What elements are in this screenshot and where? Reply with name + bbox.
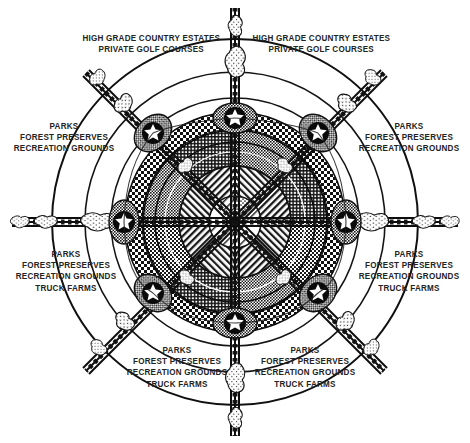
label-line: PRIVATE GOLF COURSES: [82, 44, 220, 55]
label-line: FOREST PRESERVES: [9, 132, 120, 143]
city-plan-drawing: [0, 0, 470, 443]
label-line: HIGH GRADE COUNTRY ESTATES: [82, 33, 220, 44]
label-line: FOREST PRESERVES: [9, 260, 124, 271]
label-line: PARKS: [122, 345, 233, 356]
label-line: FOREST PRESERVES: [250, 356, 361, 367]
label-parks-south-west: PARKS FOREST PRESERVES RECREATION GROUND…: [122, 345, 233, 390]
label-line: FOREST PRESERVES: [122, 356, 233, 367]
label-line: FOREST PRESERVES: [354, 132, 465, 143]
label-line: RECREATION GROUNDS: [9, 143, 120, 154]
label-line: RECREATION GROUNDS: [354, 143, 465, 154]
label-line: PARKS: [250, 345, 361, 356]
label-line: TRUCK FARMS: [9, 283, 124, 294]
label-line: RECREATION GROUNDS: [250, 367, 361, 378]
label-line: RECREATION GROUNDS: [9, 271, 124, 282]
label-line: TRUCK FARMS: [122, 379, 233, 390]
label-line: PARKS: [354, 121, 465, 132]
label-line: PARKS: [9, 249, 124, 260]
radial-city-plan-diagram: HIGH GRADE COUNTRY ESTATES PRIVATE GOLF …: [0, 0, 470, 443]
label-line: RECREATION GROUNDS: [352, 271, 467, 282]
label-line: TRUCK FARMS: [352, 283, 467, 294]
label-parks-west-upper: PARKS FOREST PRESERVES RECREATION GROUND…: [9, 121, 120, 155]
label-line: TRUCK FARMS: [250, 379, 361, 390]
label-high-grade-country-estates-ne: HIGH GRADE COUNTRY ESTATES PRIVATE GOLF …: [252, 33, 390, 55]
label-parks-east-lower: PARKS FOREST PRESERVES RECREATION GROUND…: [352, 249, 467, 294]
label-line: HIGH GRADE COUNTRY ESTATES: [252, 33, 390, 44]
label-line: PRIVATE GOLF COURSES: [252, 44, 390, 55]
label-parks-east-upper: PARKS FOREST PRESERVES RECREATION GROUND…: [354, 121, 465, 155]
label-line: FOREST PRESERVES: [352, 260, 467, 271]
label-parks-west-lower: PARKS FOREST PRESERVES RECREATION GROUND…: [9, 249, 124, 294]
label-line: PARKS: [9, 121, 120, 132]
label-parks-south-east: PARKS FOREST PRESERVES RECREATION GROUND…: [250, 345, 361, 390]
label-line: RECREATION GROUNDS: [122, 367, 233, 378]
label-high-grade-country-estates-nw: HIGH GRADE COUNTRY ESTATES PRIVATE GOLF …: [82, 33, 220, 55]
label-line: PARKS: [352, 249, 467, 260]
